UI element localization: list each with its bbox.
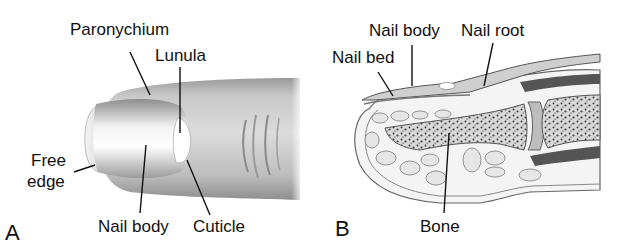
label-paronychium: Paronychium bbox=[70, 21, 169, 38]
label-nail-bed: Nail bed bbox=[332, 49, 394, 66]
cross-section-illustration bbox=[355, 54, 600, 203]
label-nail-root: Nail root bbox=[461, 22, 524, 39]
anatomy-figure: Paronychium Lunula Free edge Nail body C… bbox=[0, 0, 617, 251]
panel-letter-a: A bbox=[5, 222, 20, 244]
label-lunula: Lunula bbox=[155, 47, 206, 64]
label-nail-body-a: Nail body bbox=[98, 218, 169, 235]
label-free-edge-line2: edge bbox=[27, 173, 65, 190]
panel-letter-b: B bbox=[335, 218, 350, 240]
label-cuticle: Cuticle bbox=[193, 218, 245, 235]
label-nail-body-b: Nail body bbox=[369, 22, 440, 39]
label-bone: Bone bbox=[420, 218, 460, 235]
finger-illustration bbox=[85, 76, 302, 202]
label-free-edge-line1: Free bbox=[31, 152, 66, 169]
leader-free-edge bbox=[74, 165, 95, 172]
